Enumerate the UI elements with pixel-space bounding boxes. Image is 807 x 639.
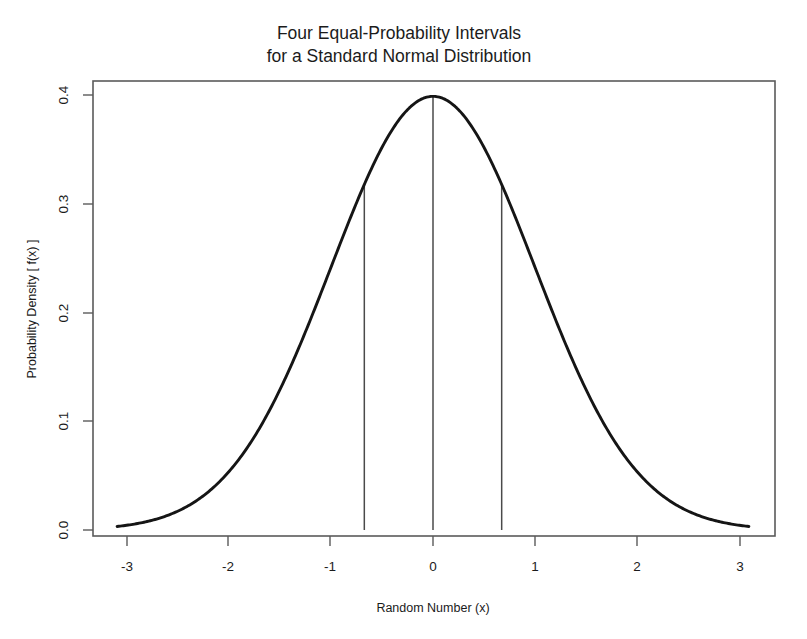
y-tick-label: 0.0 xyxy=(56,521,71,540)
x-tick-label: 2 xyxy=(633,559,641,574)
x-tick-label: -3 xyxy=(121,559,133,574)
chart-background xyxy=(0,0,807,639)
normal-distribution-chart: Four Equal-Probability Intervals for a S… xyxy=(0,0,807,639)
x-tick-label: -1 xyxy=(324,559,336,574)
y-tick-label: 0.2 xyxy=(56,304,71,323)
chart-title-line2: for a Standard Normal Distribution xyxy=(267,46,532,66)
chart-figure: Four Equal-Probability Intervals for a S… xyxy=(0,0,807,639)
x-tick-label: 1 xyxy=(531,559,539,574)
x-tick-label: 3 xyxy=(736,559,744,574)
y-axis-label: Probability Density [ f(x) ] xyxy=(25,240,39,379)
y-tick-label: 0.1 xyxy=(56,412,71,431)
chart-title-line1: Four Equal-Probability Intervals xyxy=(277,23,521,43)
x-tick-label: 0 xyxy=(429,559,437,574)
y-tick-label: 0.4 xyxy=(56,85,71,104)
x-axis-label: Random Number (x) xyxy=(376,601,489,615)
y-tick-label: 0.3 xyxy=(56,195,71,214)
x-tick-label: -2 xyxy=(222,559,234,574)
